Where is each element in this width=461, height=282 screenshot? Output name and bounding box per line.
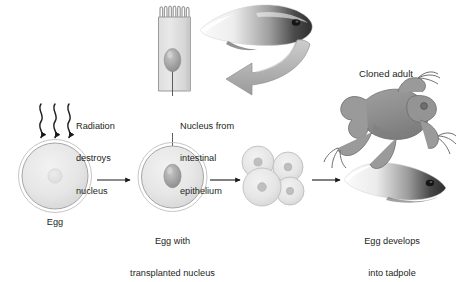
- egg-develops-label: Egg develops into tadpole: [337, 214, 447, 282]
- radiation-rays: [40, 104, 71, 138]
- cloned-adult-frog-illustration: [324, 72, 456, 169]
- egg-develops-line2: into tadpole: [337, 268, 447, 279]
- microvilli: [160, 6, 189, 17]
- nucleus-source-label: Nucleus from intestinal epithelium: [180, 99, 234, 218]
- egg-destroyed-nucleus: [48, 169, 62, 183]
- cloned-adult-label: Cloned adult: [333, 68, 439, 79]
- transplanted-nucleus: [164, 164, 181, 188]
- embryo-cleavage-stage: [242, 146, 304, 206]
- radiation-label: Radiation destroys nucleus: [76, 99, 115, 218]
- egg-develops-line1: Egg develops: [337, 236, 447, 247]
- nucleus-source-line2: intestinal: [180, 153, 234, 164]
- radiation-label-line3: nucleus: [76, 186, 115, 197]
- radiation-label-line1: Radiation: [76, 121, 115, 132]
- epithelial-nucleus: [164, 49, 181, 72]
- radiation-label-line2: destroys: [76, 153, 115, 164]
- embryo-cell: [243, 168, 281, 206]
- result-tadpole-illustration: [344, 163, 446, 203]
- egg-transplanted-line2: transplanted nucleus: [107, 268, 238, 279]
- egg-transplanted-line1: Egg with: [107, 236, 238, 247]
- egg-transplanted-label: Egg with transplanted nucleus: [107, 214, 238, 282]
- egg-label: Egg: [25, 217, 85, 228]
- nucleus-source-line1: Nucleus from: [180, 121, 234, 132]
- intestinal-epithelial-cell: [159, 6, 191, 91]
- nucleus-source-line3: epithelium: [180, 186, 234, 197]
